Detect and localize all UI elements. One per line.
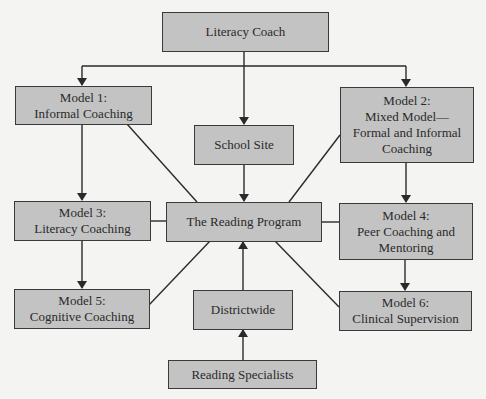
model4-label: Model 4: Peer Coaching and Mentoring [357, 208, 455, 256]
model3-box: Model 3: Literacy Coaching [14, 201, 151, 241]
connector-lines [0, 0, 486, 399]
districtwide-box: Districtwide [193, 290, 293, 330]
model2-label: Model 2: Mixed Model— Formal and Informa… [353, 93, 461, 157]
model1-label: Model 1: Informal Coaching [34, 90, 133, 122]
line-model1-to-program [127, 124, 197, 202]
reading-program-box: The Reading Program [166, 202, 322, 242]
model5-box: Model 5: Cognitive Coaching [14, 289, 150, 329]
model6-box: Model 6: Clinical Supervision [339, 291, 472, 331]
model5-label: Model 5: Cognitive Coaching [30, 293, 134, 325]
model4-box: Model 4: Peer Coaching and Mentoring [339, 203, 473, 260]
school-site-box: School Site [194, 125, 294, 165]
districtwide-label: Districtwide [211, 302, 275, 318]
model2-box: Model 2: Mixed Model— Formal and Informa… [340, 87, 474, 163]
reading-specialists-box: Reading Specialists [168, 360, 317, 389]
literacy-coach-box: Literacy Coach [162, 12, 329, 52]
literacy-coaching-diagram: Literacy Coach Model 1: Informal Coachin… [0, 0, 486, 399]
reading-specialists-label: Reading Specialists [191, 367, 293, 383]
line-model2-to-program [289, 135, 340, 202]
model6-label: Model 6: Clinical Supervision [352, 295, 459, 327]
reading-program-label: The Reading Program [187, 214, 302, 230]
school-site-label: School Site [214, 137, 274, 153]
model1-box: Model 1: Informal Coaching [15, 86, 152, 125]
literacy-coach-label: Literacy Coach [206, 24, 286, 40]
model3-label: Model 3: Literacy Coaching [34, 205, 130, 237]
